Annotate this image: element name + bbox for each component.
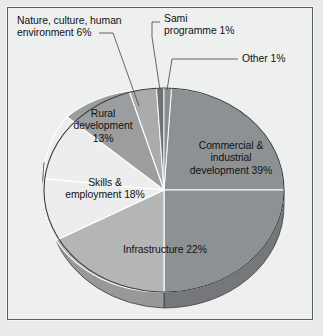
label-skills-employment: Skills & employment 18%	[51, 177, 159, 202]
leader-line-sami	[152, 22, 160, 90]
label-rural-development: Rural development 13%	[62, 108, 144, 145]
label-commercial-industrial-development: Commercial & industrial development 39%	[180, 140, 282, 177]
leader-line-other	[167, 59, 238, 90]
pie-chart-figure: Nature, culture, human environment 6% Sa…	[0, 0, 323, 336]
label-other: Other 1%	[242, 53, 312, 65]
label-sami-programme: Sami programme 1%	[164, 13, 274, 38]
label-nature-culture-human-environment: Nature, culture, human environment 6%	[17, 15, 137, 40]
slice-commercial-b[interactable]	[164, 190, 284, 292]
label-infrastructure: Infrastructure 22%	[110, 244, 220, 256]
